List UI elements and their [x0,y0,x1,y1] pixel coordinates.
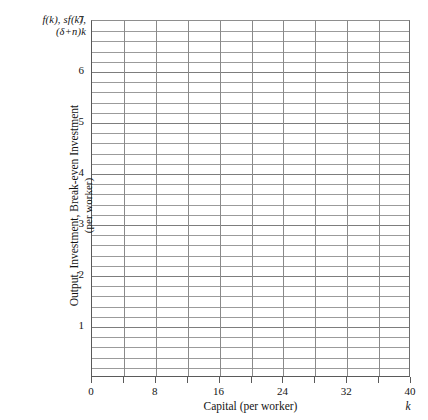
gridline-horizontal [92,215,409,216]
x-axis-tick-mark [251,377,252,383]
x-axis-tick-mark [378,377,379,383]
gridline-horizontal [92,174,409,175]
gridline-horizontal [92,307,409,308]
gridline-horizontal [92,103,409,104]
x-axis-variable-symbol: k [396,400,420,412]
gridline-horizontal [92,358,409,359]
gridline-horizontal [92,184,409,185]
gridline-horizontal [92,276,409,277]
x-axis-tick-mark [219,377,220,383]
y-axis-title: Output, Investment, Break-even Investmen… [68,41,95,371]
gridline-vertical [220,21,221,376]
gridline-horizontal [92,266,409,267]
gridline-horizontal [92,41,409,42]
gridline-horizontal [92,31,409,32]
gridline-vertical [283,21,284,376]
gridline-horizontal [92,194,409,195]
gridline-vertical [188,21,189,376]
x-axis-tick-mark [187,377,188,383]
gridline-horizontal [92,62,409,63]
gridline-horizontal [92,52,409,53]
y-axis-annotation-line2: (δ+n)k [56,26,86,37]
gridline-horizontal [92,286,409,287]
x-axis-tick-mark [91,377,92,383]
gridline-horizontal [92,72,409,73]
gridline-horizontal [92,154,409,155]
x-axis-tick-mark [346,377,347,383]
y-axis-title-line1: Output, Investment, Break-even Investmen… [68,105,80,307]
gridline-horizontal [92,133,409,134]
x-axis-tick-mark [410,377,411,383]
plot-area [91,20,410,377]
x-axis-tick-mark [155,377,156,383]
gridline-horizontal [92,256,409,257]
gridline-vertical [315,21,316,376]
gridline-horizontal [92,347,409,348]
gridline-horizontal [92,245,409,246]
gridline-vertical [156,21,157,376]
y-axis-title-line2: (per worker) [81,41,95,371]
gridline-horizontal [92,123,409,124]
x-axis-tick-label: 40 [390,385,428,397]
gridline-horizontal [92,143,409,144]
gridline-horizontal [92,317,409,318]
chart-figure: f(k), sf(k), (δ+n)k 0816243240 1234567 C… [0,0,428,420]
x-axis-tick-mark [314,377,315,383]
x-axis-title: Capital (per worker) [91,400,410,412]
gridline-horizontal [92,327,409,328]
gridline-horizontal [92,205,409,206]
x-axis-tick-label: 16 [199,385,239,397]
gridline-horizontal [92,164,409,165]
gridline-vertical [124,21,125,376]
gridline-horizontal [92,113,409,114]
gridline-horizontal [92,368,409,369]
gridline-vertical [347,21,348,376]
gridline-horizontal [92,92,409,93]
gridline-vertical [379,21,380,376]
x-axis-tick-label: 32 [326,385,366,397]
gridline-horizontal [92,235,409,236]
gridline-vertical [252,21,253,376]
x-axis-tick-mark [123,377,124,383]
y-axis-tick-label: 7 [62,13,84,25]
gridlines [92,21,409,376]
gridline-horizontal [92,296,409,297]
x-axis-tick-label: 24 [262,385,302,397]
x-axis-tick-label: 8 [135,385,175,397]
x-axis-tick-label: 0 [71,385,111,397]
gridline-horizontal [92,337,409,338]
gridline-horizontal [92,225,409,226]
gridline-horizontal [92,82,409,83]
x-axis-tick-mark [282,377,283,383]
